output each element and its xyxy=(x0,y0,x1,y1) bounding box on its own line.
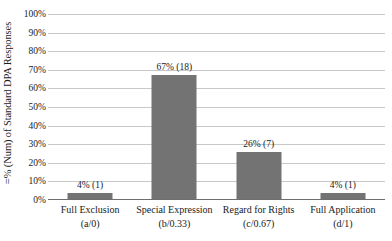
y-axis-tick-label: 10% xyxy=(20,176,46,186)
bar-slot: 67% (18) xyxy=(132,14,216,200)
bar-slot: 26% (7) xyxy=(217,14,301,200)
x-axis-category-name: Full Exclusion xyxy=(48,203,132,217)
x-axis-category-code: (c/0.67) xyxy=(217,217,301,231)
y-axis-tick-label: 40% xyxy=(20,121,46,131)
bar-slot: 4% (1) xyxy=(301,14,385,200)
bar-value-label: 67% (18) xyxy=(157,62,193,73)
bar-value-label: 26% (7) xyxy=(243,139,274,150)
x-axis-category-name: Special Expression xyxy=(132,203,216,217)
x-axis-category-code: (b/0.33) xyxy=(132,217,216,231)
y-axis-tick-label: 80% xyxy=(20,46,46,56)
y-axis-tick-label: 20% xyxy=(20,158,46,168)
x-axis-category-name: Regard for Rights xyxy=(217,203,301,217)
bar-value-label: 4% (1) xyxy=(77,180,103,191)
x-axis-category: Special Expression(b/0.33) xyxy=(132,203,216,231)
y-axis-tick-label: 30% xyxy=(20,139,46,149)
bar-slot: 4% (1) xyxy=(48,14,132,200)
y-axis-tick-label: 60% xyxy=(20,83,46,93)
x-axis-category-code: (d/1) xyxy=(301,217,385,231)
y-axis-tick-label: 100% xyxy=(20,9,46,19)
y-axis-tick-labels: 100%90%80%70%60%50%40%30%20%10%0% xyxy=(20,0,46,241)
y-axis-tick-label: 90% xyxy=(20,28,46,38)
x-axis-category-labels: Full Exclusion(a/0)Special Expression(b/… xyxy=(48,203,385,241)
x-axis-category: Regard for Rights(c/0.67) xyxy=(217,203,301,231)
y-axis-tick-label: 70% xyxy=(20,65,46,75)
bar[interactable] xyxy=(152,75,197,200)
bar-value-label: 4% (1) xyxy=(330,180,356,191)
x-axis-category: Full Application(d/1) xyxy=(301,203,385,231)
y-axis-tick-label: 50% xyxy=(20,102,46,112)
x-axis-line xyxy=(48,199,385,200)
bar-chart: =% (Num) of Standard DPA Responses 100%9… xyxy=(0,0,392,241)
x-axis-category-name: Full Application xyxy=(301,203,385,217)
y-axis-title: =% (Num) of Standard DPA Responses xyxy=(2,3,16,203)
x-axis-category: Full Exclusion(a/0) xyxy=(48,203,132,231)
plot-area: 4% (1)67% (18)26% (7)4% (1) xyxy=(48,14,385,200)
bars-layer: 4% (1)67% (18)26% (7)4% (1) xyxy=(48,14,385,200)
y-axis-tick-label: 0% xyxy=(20,195,46,205)
bar[interactable] xyxy=(236,152,281,200)
x-axis-category-code: (a/0) xyxy=(48,217,132,231)
